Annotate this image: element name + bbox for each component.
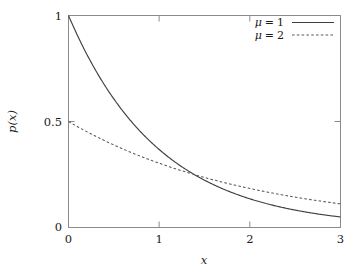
series-line-mu-2 — [69, 122, 341, 204]
exponential-distribution-chart: 0 0.5 1 0 1 2 3 x p(x) μ=1 μ=2 — [0, 0, 357, 273]
legend-label-mu-2: μ=2 — [255, 29, 284, 42]
y-axis-label: p(x) — [5, 110, 19, 133]
legend-mu-symbol-1: μ — [255, 16, 262, 29]
legend-label-mu-1: μ=1 — [255, 16, 284, 29]
legend-entry-mu-2[interactable]: μ=2 — [255, 29, 334, 42]
legend-eq-1: = — [265, 16, 274, 29]
legend-value-1: 1 — [277, 16, 284, 29]
x-axis-ticks — [69, 16, 341, 228]
y-axis-label-close: ) — [5, 110, 19, 116]
x-tick-label-0: 0 — [65, 232, 72, 246]
x-tick-label-2: 2 — [246, 232, 253, 246]
data-series-group — [69, 16, 341, 217]
x-axis-label: x — [201, 253, 208, 267]
x-tick-labels: 0 1 2 3 — [65, 232, 344, 246]
x-tick-label-3: 3 — [337, 232, 344, 246]
y-tick-labels: 0 0.5 1 — [44, 9, 62, 235]
plot-frame — [69, 16, 341, 228]
chart-figure: 0 0.5 1 0 1 2 3 x p(x) μ=1 μ=2 — [0, 0, 357, 273]
legend-entry-mu-1[interactable]: μ=1 — [255, 16, 334, 29]
y-axis-label-group: p(x) — [5, 110, 19, 133]
legend-eq-2: = — [265, 29, 274, 42]
y-tick-label-1: 1 — [55, 9, 62, 23]
y-tick-label-0: 0 — [55, 220, 62, 234]
legend-mu-symbol-2: μ — [255, 29, 262, 42]
y-axis-ticks — [69, 16, 341, 228]
series-line-mu-1 — [69, 16, 341, 217]
x-tick-label-1: 1 — [155, 232, 162, 246]
y-tick-label-half: 0.5 — [44, 115, 62, 129]
legend: μ=1 μ=2 — [255, 16, 334, 42]
legend-value-2: 2 — [277, 29, 284, 42]
